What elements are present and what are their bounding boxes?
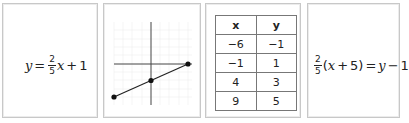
eq-equals: =	[34, 58, 45, 73]
eq-inner-const: 5	[350, 58, 358, 73]
graph-card[interactable]	[103, 3, 201, 118]
cell-y: 1	[256, 54, 297, 73]
table-row: 9 5	[216, 92, 297, 111]
eq-equals: =	[365, 58, 376, 73]
cell-x: 9	[216, 92, 257, 111]
cell-x: −1	[216, 54, 257, 73]
cell-y: 5	[256, 92, 297, 111]
cell-x: −6	[216, 35, 257, 54]
eq-rhs-const: 1	[401, 58, 409, 73]
fraction-denominator: 5	[49, 66, 55, 76]
cell-y: 3	[256, 73, 297, 92]
fraction-numerator: 2	[48, 55, 56, 66]
fraction-numerator: 2	[314, 55, 322, 66]
eq-plus: +	[337, 58, 348, 73]
eq-var-x: x	[57, 58, 64, 73]
fraction-denominator: 5	[315, 66, 321, 76]
eq-plus: +	[66, 58, 77, 73]
header-x: x	[216, 16, 257, 35]
equation-slope-intercept: y = 2 5 x + 1	[25, 55, 88, 76]
eq-const: 1	[79, 58, 87, 73]
line-graph	[104, 4, 202, 119]
equation-card-point-slope[interactable]: 2 5 ( x + 5 ) = y − 1	[307, 3, 400, 118]
eq-paren-close: )	[358, 58, 363, 73]
cell-y: −1	[256, 35, 297, 54]
equation-point-slope: 2 5 ( x + 5 ) = y − 1	[313, 55, 409, 76]
point-b	[148, 78, 153, 83]
xy-table: x y −6 −1 −1 1 4 3 9 5	[215, 15, 297, 111]
header-y: y	[256, 16, 297, 35]
equation-card-slope-intercept[interactable]: y = 2 5 x + 1	[2, 3, 98, 118]
table-header-row: x y	[216, 16, 297, 35]
table-row: 4 3	[216, 73, 297, 92]
fraction-two-fifths: 2 5	[48, 55, 56, 76]
table-card[interactable]: x y −6 −1 −1 1 4 3 9 5	[205, 3, 301, 118]
point-a	[111, 94, 116, 99]
table-row: −1 1	[216, 54, 297, 73]
cell-x: 4	[216, 73, 257, 92]
eq-minus: −	[388, 58, 399, 73]
point-c	[185, 61, 190, 66]
eq-var-x: x	[328, 58, 335, 73]
eq-var-y: y	[378, 58, 385, 73]
eq-lhs-y: y	[25, 58, 32, 73]
fraction-two-fifths: 2 5	[314, 55, 322, 76]
table-row: −6 −1	[216, 35, 297, 54]
